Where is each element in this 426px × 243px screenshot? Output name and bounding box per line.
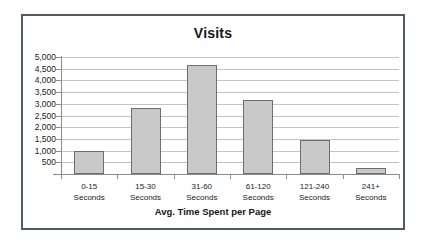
value-axis-tick-label: 500 [24, 157, 56, 167]
bar[interactable] [243, 100, 273, 174]
x-axis-title: Avg. Time Spent per Page [23, 206, 403, 217]
bar[interactable] [300, 140, 330, 174]
category-axis-label-line: 121-240 [286, 182, 342, 193]
category-axis-label-line: 0-15 [61, 182, 117, 193]
category-axis-label-line: 61-120 [230, 182, 286, 193]
category-axis-label-line: Seconds [61, 193, 117, 204]
category-axis-tick [343, 174, 344, 179]
category-axis-tick [286, 174, 287, 179]
chart-title: Visits [23, 25, 403, 41]
value-axis-tick-label: 5,000 [24, 52, 56, 62]
category-axis-label: 0-15Seconds [61, 182, 117, 203]
value-axis-tick-label: 1,000 [24, 146, 56, 156]
plot-area [61, 57, 399, 174]
value-axis-labels: 5,0004,5004,0003,5003,0002,5002,0001,500… [23, 16, 56, 232]
category-axis-tick [399, 174, 400, 179]
category-axis-tick [61, 174, 62, 179]
category-axis-label-line: 31-60 [174, 182, 230, 193]
value-axis-tick-label: 4,000 [24, 75, 56, 85]
category-axis-label: 15-30Seconds [117, 182, 173, 203]
value-axis-tick-label: 1,500 [24, 134, 56, 144]
category-axis-label: 31-60Seconds [174, 182, 230, 203]
chart-frame: Visits 5,0004,5004,0003,5003,0002,5002,0… [21, 14, 405, 230]
category-axis-label-line: Seconds [286, 193, 342, 204]
value-axis-tick-label: 4,500 [24, 64, 56, 74]
category-axis-tick [117, 174, 118, 179]
value-axis-tick-label: 2,500 [24, 111, 56, 121]
category-axis-label-line: 15-30 [117, 182, 173, 193]
value-axis-tick-label: - [24, 169, 56, 179]
category-axis-label-line: Seconds [343, 193, 399, 204]
value-axis-tick-label: 3,500 [24, 87, 56, 97]
bar[interactable] [356, 168, 386, 174]
category-axis-label-line: Seconds [230, 193, 286, 204]
value-axis-tick-label: 3,000 [24, 99, 56, 109]
category-axis-labels: 0-15Seconds15-30Seconds31-60Seconds61-12… [61, 182, 399, 208]
category-axis-tick [230, 174, 231, 179]
category-axis-label-line: Seconds [117, 193, 173, 204]
category-axis-label: 61-120Seconds [230, 182, 286, 203]
category-axis-tick [174, 174, 175, 179]
category-axis-label-line: Seconds [174, 193, 230, 204]
category-axis-label: 121-240Seconds [286, 182, 342, 203]
bar[interactable] [187, 65, 217, 174]
bar[interactable] [74, 151, 104, 174]
category-axis-label-line: 241+ [343, 182, 399, 193]
bar[interactable] [131, 108, 161, 174]
category-axis-label: 241+Seconds [343, 182, 399, 203]
value-axis-tick-label: 2,000 [24, 122, 56, 132]
